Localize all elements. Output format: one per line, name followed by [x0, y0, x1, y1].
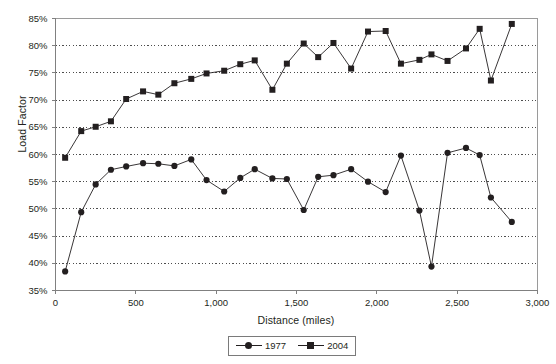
data-point-marker	[428, 51, 434, 57]
data-point-marker	[284, 176, 290, 182]
legend-marker-glyph	[245, 342, 252, 349]
data-point-marker	[171, 80, 177, 86]
data-point-marker	[463, 45, 469, 51]
data-point-marker	[252, 57, 258, 63]
legend-entry-2004: 2004	[298, 341, 348, 351]
data-point-marker	[123, 96, 129, 102]
series-line	[65, 148, 512, 271]
data-point-marker	[365, 179, 371, 185]
data-point-marker	[463, 145, 469, 151]
data-point-marker	[284, 61, 290, 67]
data-point-marker	[330, 40, 336, 46]
legend-circle-marker-icon	[236, 341, 262, 350]
plot-area	[0, 0, 556, 364]
data-point-marker	[398, 61, 404, 67]
data-point-marker	[221, 188, 227, 194]
y-tick-label: 55%	[12, 177, 48, 187]
y-tick-label: 70%	[12, 95, 48, 105]
data-point-marker	[62, 155, 68, 161]
data-point-marker	[330, 172, 336, 178]
data-point-marker	[445, 58, 451, 64]
legend-square-marker-icon	[298, 341, 324, 350]
x-tick-label: 1,500	[272, 298, 322, 308]
x-tick-label: 500	[111, 298, 161, 308]
data-point-marker	[416, 207, 422, 213]
data-point-marker	[188, 156, 194, 162]
data-point-marker	[155, 161, 161, 167]
data-point-marker	[108, 167, 114, 173]
data-point-marker	[416, 57, 422, 63]
data-point-marker	[269, 175, 275, 181]
data-point-marker	[237, 175, 243, 181]
data-point-marker	[155, 92, 161, 98]
data-point-marker	[237, 61, 243, 67]
data-point-marker	[171, 163, 177, 169]
data-point-marker	[204, 70, 210, 76]
data-point-marker	[315, 174, 321, 180]
data-point-marker	[509, 219, 515, 225]
y-tick-label: 40%	[12, 258, 48, 268]
data-point-marker	[488, 78, 494, 84]
chart-legend: 19772004	[228, 336, 356, 356]
data-point-marker	[365, 29, 371, 35]
legend-label: 2004	[327, 341, 348, 351]
data-point-marker	[123, 163, 129, 169]
data-point-marker	[301, 41, 307, 47]
y-tick-label: 80%	[12, 41, 48, 51]
data-point-marker	[301, 207, 307, 213]
data-point-marker	[383, 28, 389, 34]
x-tick-label: 1,000	[191, 298, 241, 308]
data-point-marker	[140, 88, 146, 94]
data-point-marker	[93, 181, 99, 187]
data-point-marker	[78, 209, 84, 215]
series-2004	[62, 21, 515, 161]
data-point-marker	[477, 26, 483, 32]
legend-label: 1977	[265, 341, 286, 351]
data-point-marker	[188, 76, 194, 82]
legend-entry-1977: 1977	[236, 341, 286, 351]
x-tick-label: 2,000	[352, 298, 402, 308]
data-point-marker	[252, 166, 258, 172]
data-point-marker	[444, 150, 450, 156]
y-tick-label: 65%	[12, 122, 48, 132]
y-tick-label: 60%	[12, 150, 48, 160]
y-tick-label: 50%	[12, 204, 48, 214]
y-tick-label: 75%	[12, 68, 48, 78]
data-point-marker	[398, 152, 404, 158]
legend-marker-glyph	[307, 342, 314, 349]
data-point-marker	[140, 160, 146, 166]
data-point-marker	[509, 21, 515, 27]
data-point-marker	[108, 118, 114, 124]
data-point-marker	[383, 189, 389, 195]
x-axis-title: Distance (miles)	[55, 314, 537, 326]
data-point-marker	[203, 177, 209, 183]
data-point-marker	[477, 152, 483, 158]
series-line	[65, 24, 512, 158]
load-factor-line-chart: Load Factor Distance (miles) 35%40%45%50…	[0, 0, 556, 364]
x-tick-label: 0	[31, 298, 81, 308]
data-point-marker	[428, 263, 434, 269]
data-point-marker	[62, 268, 68, 274]
y-tick-label: 45%	[12, 231, 48, 241]
data-point-marker	[488, 194, 494, 200]
x-tick-label: 3,000	[513, 298, 556, 308]
data-point-marker	[93, 124, 99, 130]
data-point-marker	[78, 128, 84, 134]
y-tick-label: 35%	[12, 286, 48, 296]
y-tick-label: 85%	[12, 14, 48, 24]
data-point-marker	[348, 166, 354, 172]
data-point-marker	[315, 54, 321, 60]
data-point-marker	[221, 68, 227, 74]
x-tick-label: 2,500	[432, 298, 482, 308]
series-1977	[62, 145, 515, 275]
data-point-marker	[269, 87, 275, 93]
data-point-marker	[348, 66, 354, 72]
